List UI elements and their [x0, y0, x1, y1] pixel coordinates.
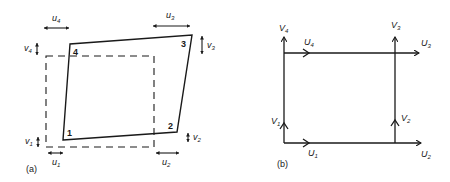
label-V2: V2: [401, 113, 411, 124]
panel-a: 1 2 3 4 u4 u3 u1 u2 v4 v3 v1 v2 (a): [24, 10, 216, 174]
label-v4: v4: [24, 43, 33, 54]
label-u4: u4: [52, 13, 61, 24]
node-number-1: 1: [67, 128, 72, 138]
label-v3: v3: [207, 40, 216, 51]
label-U4: U4: [304, 37, 315, 48]
node-number-2: 2: [168, 121, 173, 131]
label-u3: u3: [166, 10, 175, 21]
node-number-3: 3: [181, 39, 186, 49]
label-v1: v1: [25, 136, 33, 147]
undeformed-element-outline: [46, 56, 154, 147]
label-U2: U2: [421, 149, 432, 160]
label-U3: U3: [421, 38, 432, 49]
label-V3: V3: [391, 20, 401, 31]
node-number-4: 4: [73, 47, 78, 57]
label-u2: u2: [162, 157, 171, 168]
label-v2: v2: [193, 132, 202, 143]
panel-a-caption: (a): [26, 164, 37, 174]
label-V1: V1: [271, 116, 280, 127]
label-U1: U1: [308, 148, 318, 159]
panel-b: V4 U4 V3 U3 V1 V2 U1 U2 (b): [271, 20, 432, 169]
panel-b-caption: (b): [277, 159, 288, 169]
label-V4: V4: [279, 23, 289, 34]
element-displacement-diagram: 1 2 3 4 u4 u3 u1 u2 v4 v3 v1 v2 (a): [0, 0, 450, 182]
label-u1: u1: [52, 157, 60, 168]
